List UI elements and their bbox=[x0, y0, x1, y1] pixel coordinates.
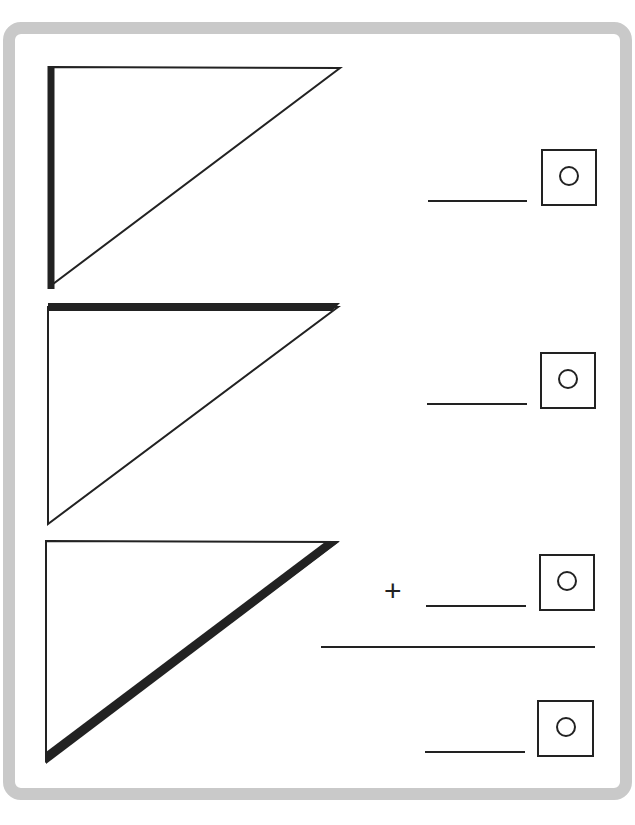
bold-top-side bbox=[48, 303, 340, 311]
answer-blank-total[interactable] bbox=[425, 751, 525, 753]
triangle-3 bbox=[46, 541, 339, 764]
degree-icon bbox=[556, 717, 576, 737]
degree-box-2 bbox=[540, 352, 596, 409]
plus-sign: + bbox=[384, 576, 402, 606]
degree-icon bbox=[559, 166, 579, 186]
answer-blank-2[interactable] bbox=[427, 403, 527, 405]
answer-blank-1[interactable] bbox=[428, 200, 527, 202]
answer-blank-3[interactable] bbox=[426, 605, 526, 607]
degree-box-1 bbox=[541, 149, 597, 206]
degree-icon bbox=[557, 571, 577, 591]
triangle-2 bbox=[48, 303, 340, 524]
triangle-1 bbox=[49, 66, 340, 289]
sum-line bbox=[321, 646, 595, 648]
degree-box-total bbox=[537, 700, 594, 757]
degree-icon bbox=[558, 369, 578, 389]
degree-box-3 bbox=[539, 554, 595, 611]
